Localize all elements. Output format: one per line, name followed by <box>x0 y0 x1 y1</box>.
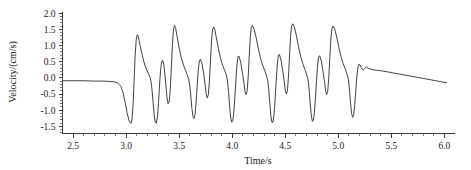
y-axis-group: 2.01.51.00.50.0-0.5-1.0-1.5 Velocity/(cm… <box>7 9 63 134</box>
x-tick-label: 6.0 <box>438 141 450 151</box>
x-axis-title: Time/s <box>244 155 272 166</box>
data-series-group <box>63 24 447 124</box>
y-tick-label: 2.0 <box>44 9 56 19</box>
x-tick-label: 2.5 <box>67 141 79 151</box>
y-tick-label: 1.5 <box>44 25 56 35</box>
y-tick-label: 0.5 <box>44 57 56 67</box>
x-axis-group: 2.53.03.54.04.55.05.56.0 Time/s <box>63 134 456 167</box>
y-axis-ticks <box>59 13 63 126</box>
y-tick-label: 0.0 <box>44 73 56 83</box>
x-tick-label: 5.5 <box>385 141 397 151</box>
x-tick-label: 5.0 <box>332 141 344 151</box>
y-tick-label: -1.5 <box>40 122 55 132</box>
y-axis-tick-labels: 2.01.51.00.50.0-0.5-1.0-1.5 <box>40 9 55 132</box>
x-tick-label: 4.5 <box>279 141 291 151</box>
chart-canvas: 2.01.51.00.50.0-0.5-1.0-1.5 Velocity/(cm… <box>0 0 471 170</box>
x-tick-label: 3.0 <box>120 141 132 151</box>
y-tick-label: -1.0 <box>40 106 55 116</box>
x-axis-ticks <box>73 134 444 138</box>
velocity-time-chart: 2.01.51.00.50.0-0.5-1.0-1.5 Velocity/(cm… <box>0 0 471 170</box>
y-axis-title: Velocity/(cm/s) <box>7 41 19 103</box>
x-tick-label: 3.5 <box>173 141 185 151</box>
velocity-trace <box>63 24 447 124</box>
x-tick-label: 4.0 <box>226 141 238 151</box>
y-tick-label: 1.0 <box>44 41 56 51</box>
x-axis-tick-labels: 2.53.03.54.04.55.05.56.0 <box>67 141 450 151</box>
y-tick-label: -0.5 <box>40 89 55 99</box>
